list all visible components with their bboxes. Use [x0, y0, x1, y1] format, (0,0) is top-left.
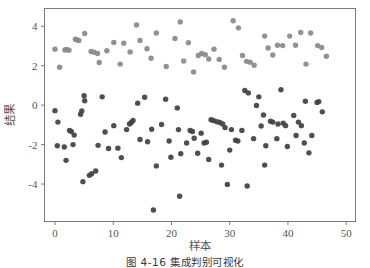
y-tick-label: -4	[28, 178, 38, 190]
data-point	[291, 113, 296, 118]
data-point	[62, 144, 67, 149]
y-tick-label: -2	[28, 139, 37, 151]
data-point	[52, 46, 57, 51]
data-point	[195, 151, 200, 156]
data-point	[154, 30, 159, 35]
data-point	[181, 58, 186, 63]
data-point	[72, 132, 77, 137]
data-points-layer	[52, 18, 329, 213]
data-point	[265, 45, 270, 50]
data-point	[219, 162, 224, 167]
x-tick-label: 30	[224, 227, 236, 239]
data-point	[270, 52, 275, 57]
data-point	[149, 127, 154, 132]
data-point	[55, 143, 60, 148]
data-point	[198, 130, 203, 135]
x-tick-label: 10	[108, 227, 120, 239]
data-point	[222, 125, 227, 130]
data-point	[244, 183, 249, 188]
data-point	[320, 109, 325, 114]
data-point	[274, 136, 279, 141]
data-point	[166, 138, 171, 143]
data-point	[79, 108, 84, 113]
x-tick-label: 50	[341, 227, 353, 239]
data-point	[211, 46, 216, 51]
data-point	[246, 90, 251, 95]
data-point	[287, 33, 292, 38]
data-point	[168, 155, 173, 160]
data-point	[316, 99, 321, 104]
plot-frame	[45, 9, 356, 222]
data-point	[303, 61, 308, 66]
data-point	[119, 155, 124, 160]
data-point	[285, 144, 290, 149]
data-point	[111, 40, 116, 45]
data-point	[204, 140, 209, 145]
data-point	[278, 87, 283, 92]
data-point	[299, 123, 304, 128]
data-point	[137, 38, 142, 43]
x-axis-ticks	[55, 222, 346, 226]
data-point	[186, 40, 191, 45]
data-point	[262, 162, 267, 167]
data-point	[240, 53, 245, 58]
x-tick-label: 20	[166, 227, 178, 239]
data-point	[206, 157, 211, 162]
data-point	[258, 123, 263, 128]
x-axis-title: 样本	[189, 239, 212, 253]
data-point	[178, 19, 183, 24]
data-point	[95, 143, 100, 148]
data-point	[175, 105, 180, 110]
data-point	[235, 138, 240, 143]
data-point	[280, 43, 285, 48]
data-point	[66, 48, 71, 53]
data-point	[106, 146, 111, 151]
data-point	[102, 129, 107, 134]
figure-caption: 图 4-16 集成判别可视化	[0, 256, 370, 268]
data-point	[57, 65, 62, 70]
data-point	[256, 94, 261, 99]
data-point	[93, 168, 98, 173]
data-point	[302, 140, 307, 145]
data-point	[203, 52, 208, 57]
y-tick-label: 4	[32, 20, 38, 32]
x-tick-label: 0	[52, 227, 58, 239]
data-point	[95, 51, 100, 56]
data-point	[176, 127, 181, 132]
data-point	[97, 60, 102, 65]
data-point	[225, 182, 230, 187]
data-point	[236, 25, 241, 30]
data-point	[270, 119, 275, 124]
data-point	[251, 136, 256, 141]
y-axis-ticks	[41, 26, 45, 184]
data-point	[239, 128, 244, 133]
data-point	[275, 121, 280, 126]
data-point	[137, 137, 142, 142]
data-point	[251, 63, 256, 68]
data-point	[293, 42, 298, 47]
data-point	[324, 54, 329, 59]
y-tick-label: 2	[32, 60, 38, 72]
data-point	[263, 143, 268, 148]
x-axis-tick-labels: 01020304050	[52, 227, 352, 239]
data-point	[283, 123, 288, 128]
y-axis-tick-labels: -4-2024	[28, 20, 38, 190]
data-point	[231, 18, 236, 23]
data-point	[104, 48, 109, 53]
data-point	[159, 122, 164, 127]
data-point	[254, 103, 259, 108]
data-point	[293, 133, 298, 138]
data-point	[124, 127, 129, 132]
data-point	[145, 139, 150, 144]
data-point	[319, 45, 324, 50]
x-tick-label: 40	[282, 227, 294, 239]
data-point	[82, 98, 87, 103]
data-point	[164, 64, 169, 69]
data-point	[229, 127, 234, 132]
data-point	[217, 57, 222, 62]
data-point	[222, 65, 227, 70]
data-point	[134, 22, 139, 27]
data-point	[303, 98, 308, 103]
